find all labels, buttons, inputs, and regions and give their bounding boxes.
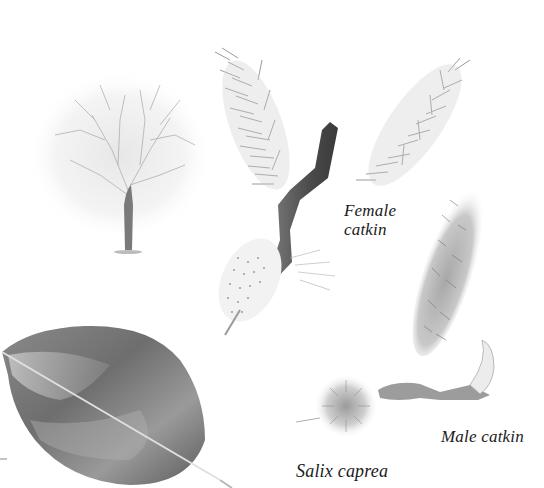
- leaf-figure: [0, 326, 232, 488]
- female-catkin-label-line2: catkin: [344, 220, 424, 239]
- illustration-plate: Female catkin Male catkin Salix caprea: [0, 0, 544, 488]
- male-catkin-label: Male catkin: [441, 427, 524, 446]
- female-catkin-label: Female catkin: [344, 201, 424, 239]
- tree-figure: [28, 70, 212, 254]
- botanical-illustration: [0, 0, 544, 488]
- species-name-label: Salix caprea: [296, 462, 388, 481]
- female-catkin-label-line1: Female: [344, 201, 424, 220]
